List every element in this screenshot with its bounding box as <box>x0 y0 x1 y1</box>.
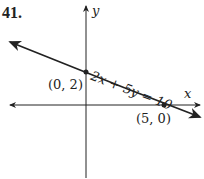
y-axis-label: y <box>92 3 99 18</box>
point-0-2 <box>84 70 89 75</box>
graph <box>0 0 204 179</box>
point-label-5-0: (5, 0) <box>136 111 171 126</box>
x-axis-label: x <box>184 86 191 101</box>
point-label-0-2: (0, 2) <box>48 77 83 92</box>
